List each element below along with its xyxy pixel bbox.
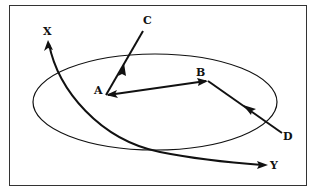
arrow-a-c <box>106 31 143 95</box>
label-a: A <box>94 85 103 96</box>
oval-region <box>33 54 277 150</box>
curve-x-y <box>49 44 262 165</box>
label-b: B <box>196 67 205 78</box>
label-d: D <box>283 131 293 142</box>
label-y: Y <box>270 160 278 171</box>
arrow-a-b <box>108 81 206 95</box>
label-x: X <box>43 26 52 37</box>
arrowhead-a-c <box>118 63 126 76</box>
label-c: C <box>143 15 152 26</box>
arrowhead-x <box>44 40 53 51</box>
